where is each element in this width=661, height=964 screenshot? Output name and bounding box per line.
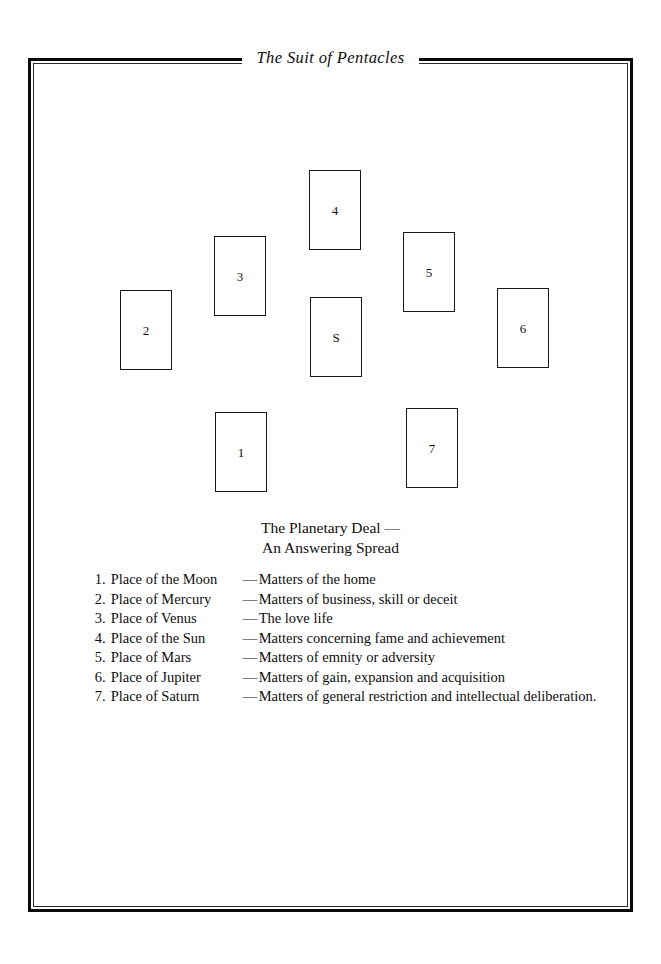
key-row-place: Place of the Moon xyxy=(111,570,243,590)
key-row-description: Matters of business, skill or deceit xyxy=(259,590,605,610)
key-row-place: Place of Jupiter xyxy=(111,668,243,688)
key-row-dash: — xyxy=(243,570,259,590)
tarot-card-5: 5 xyxy=(403,232,455,312)
tarot-card-label: 2 xyxy=(143,324,150,337)
spread-caption-line-1: The Planetary Deal — xyxy=(0,518,661,538)
key-row-description: Matters of emnity or adversity xyxy=(259,648,605,668)
position-key-list: 1.Place of the Moon—Matters of the home2… xyxy=(85,570,605,707)
key-row-dash: — xyxy=(243,609,259,629)
key-row-number: 5 xyxy=(85,648,102,668)
spread-caption-line-2: An Answering Spread xyxy=(0,538,661,558)
tarot-card-6: 6 xyxy=(497,288,549,368)
tarot-card-label: 7 xyxy=(429,442,436,455)
tarot-spread-diagram: 234S5617 xyxy=(0,0,661,520)
key-row-place: Place of Mercury xyxy=(111,590,243,610)
key-row-description: Matters of gain, expansion and acquisiti… xyxy=(259,668,605,688)
key-row-dash: — xyxy=(243,687,259,707)
key-row-dash: — xyxy=(243,590,259,610)
spread-caption: The Planetary Deal — An Answering Spread xyxy=(0,518,661,558)
key-row: 2.Place of Mercury—Matters of business, … xyxy=(85,590,605,610)
key-row-number: 1 xyxy=(85,570,102,590)
key-row-number: 3 xyxy=(85,609,102,629)
tarot-card-2: 2 xyxy=(120,290,172,370)
key-row-dash: — xyxy=(243,648,259,668)
key-row: 3.Place of Venus—The love life xyxy=(85,609,605,629)
key-row: 4.Place of the Sun—Matters concerning fa… xyxy=(85,629,605,649)
tarot-card-label: S xyxy=(332,331,339,344)
key-row-number-dot: . xyxy=(102,570,111,590)
key-row-number: 2 xyxy=(85,590,102,610)
tarot-card-1: 1 xyxy=(215,412,267,492)
tarot-card-s: S xyxy=(310,297,362,377)
key-row-place: Place of the Sun xyxy=(111,629,243,649)
key-row: 5.Place of Mars—Matters of emnity or adv… xyxy=(85,648,605,668)
tarot-card-7: 7 xyxy=(406,408,458,488)
tarot-card-3: 3 xyxy=(214,236,266,316)
tarot-card-label: 1 xyxy=(238,446,245,459)
key-row-dash: — xyxy=(243,629,259,649)
key-row-description: Matters concerning fame and achievement xyxy=(259,629,605,649)
key-row: 1.Place of the Moon—Matters of the home xyxy=(85,570,605,590)
key-row-number-dot: . xyxy=(102,609,111,629)
key-row-number-dot: . xyxy=(102,629,111,649)
key-row-number-dot: . xyxy=(102,687,111,707)
key-row-number-dot: . xyxy=(102,648,111,668)
key-row: 6.Place of Jupiter—Matters of gain, expa… xyxy=(85,668,605,688)
key-row-dash: — xyxy=(243,668,259,688)
tarot-card-label: 5 xyxy=(426,266,433,279)
key-row-description: The love life xyxy=(259,609,605,629)
key-row-number-dot: . xyxy=(102,668,111,688)
tarot-card-4: 4 xyxy=(309,170,361,250)
key-row: 7.Place of Saturn—Matters of general res… xyxy=(85,687,605,707)
key-row-place: Place of Venus xyxy=(111,609,243,629)
key-row-description: Matters of the home xyxy=(259,570,605,590)
key-row-number: 7 xyxy=(85,687,102,707)
key-row-number-dot: . xyxy=(102,590,111,610)
key-row-place: Place of Saturn xyxy=(111,687,243,707)
key-row-number: 4 xyxy=(85,629,102,649)
tarot-card-label: 6 xyxy=(520,322,527,335)
key-row-description: Matters of general restriction and intel… xyxy=(259,687,605,707)
tarot-card-label: 3 xyxy=(237,270,244,283)
key-row-number: 6 xyxy=(85,668,102,688)
key-row-place: Place of Mars xyxy=(111,648,243,668)
tarot-card-label: 4 xyxy=(332,204,339,217)
